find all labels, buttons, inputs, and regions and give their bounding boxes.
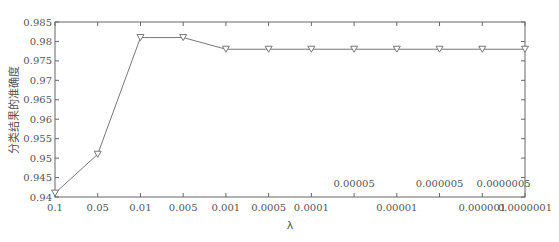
series-layer (52, 35, 529, 197)
y-tick-label: 0.975 (23, 55, 52, 66)
y-tick-label: 0.965 (23, 94, 52, 105)
x-tick-label: 0.0005 (251, 202, 286, 213)
y-axis: 0.940.9450.950.9550.960.9650.970.9750.98… (23, 17, 525, 203)
x-tick-label: 0.0001 (294, 202, 329, 213)
y-tick-label: 0.955 (23, 133, 52, 144)
x-inside-label: 0.0000005 (477, 178, 531, 189)
y-tick-label: 0.94 (30, 192, 52, 203)
series-line (55, 38, 525, 194)
x-tick-label: 0.05 (87, 202, 109, 213)
y-tick-label: 0.95 (30, 153, 52, 164)
x-tick-label: 0.001 (212, 202, 241, 213)
x-tick-label: 0.1 (47, 202, 63, 213)
y-tick-label: 0.98 (30, 36, 52, 47)
inside-x-labels: 0.000050.0000050.0000005 (333, 178, 530, 189)
x-tick-label: 0.00001 (376, 202, 417, 213)
y-tick-label: 0.97 (30, 75, 52, 86)
x-tick-label: 0.01 (129, 202, 151, 213)
x-inside-label: 0.00005 (333, 178, 374, 189)
accuracy-line-chart: 0.940.9450.950.9550.960.9650.970.9750.98… (0, 0, 559, 242)
plot-frame (55, 22, 525, 197)
y-tick-label: 0.945 (23, 172, 52, 183)
y-axis-title: 分类结果的准确度 (7, 66, 21, 154)
data-point-marker (52, 190, 59, 196)
x-inside-label: 0.000005 (416, 178, 464, 189)
x-axis-title: λ (287, 219, 294, 232)
x-tick-label: 0.005 (169, 202, 198, 213)
x-tick-label: 0.0000001 (498, 202, 552, 213)
y-tick-label: 0.96 (30, 114, 52, 125)
y-tick-label: 0.985 (23, 17, 52, 28)
